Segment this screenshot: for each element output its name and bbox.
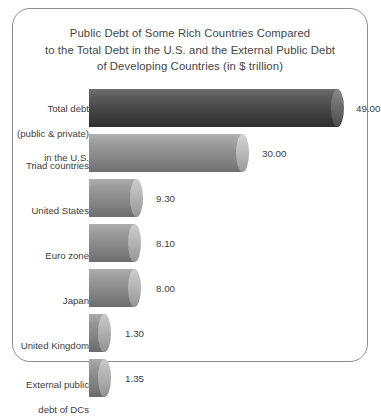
bar-row: United Kingdom 1.30 bbox=[13, 312, 369, 356]
chart-title: Public Debt of Some Rich Countries Compa… bbox=[13, 25, 367, 75]
bar-row: United States 9.30 bbox=[13, 177, 369, 221]
bar-cylinder-cap bbox=[128, 224, 141, 262]
bar-value-label: 8.10 bbox=[156, 239, 175, 249]
bar-value-label: 49.00 bbox=[356, 104, 381, 114]
bar-row: External public debt of DCs 1.35 bbox=[13, 357, 369, 401]
chart-title-line-1: Public Debt of Some Rich Countries Compa… bbox=[13, 25, 367, 42]
bar-cylinder-cap bbox=[98, 314, 111, 352]
bar-cylinder-cap bbox=[128, 269, 141, 307]
chart-title-line-2: to the Total Debt in the U.S. and the Ex… bbox=[13, 42, 367, 59]
bar-cylinder[interactable] bbox=[89, 179, 143, 217]
bar-value-label: 9.30 bbox=[156, 194, 175, 204]
bar-label-line: Total debt bbox=[47, 103, 89, 114]
bar-cylinder-cap bbox=[98, 359, 111, 397]
bar-row: Euro zone 8.10 bbox=[13, 222, 369, 266]
bar-cylinder-cap bbox=[130, 179, 143, 217]
bar-value-label: 8.00 bbox=[156, 284, 175, 294]
bar-cylinder[interactable] bbox=[89, 89, 344, 127]
bar-cylinder-body bbox=[89, 89, 338, 127]
bar-cylinder[interactable] bbox=[89, 269, 141, 307]
chart-title-line-3: of Developing Countries (in $ trillion) bbox=[13, 58, 367, 75]
bar-label-line: Triad countries bbox=[26, 160, 89, 171]
bar-row: Total debt (public & private) in the U.S… bbox=[13, 87, 369, 131]
bar-cylinder-body bbox=[89, 134, 243, 172]
bar-value-label: 30.00 bbox=[262, 149, 287, 159]
bar-label-line: debt of DCs bbox=[38, 404, 89, 415]
bar-cylinder[interactable] bbox=[89, 224, 141, 262]
bar-label-line: Japan bbox=[63, 295, 89, 306]
bar-value-label: 1.30 bbox=[125, 329, 144, 339]
bar-label-line: Euro zone bbox=[45, 250, 89, 261]
bar-label-line: United States bbox=[31, 205, 89, 216]
chart-frame: Public Debt of Some Rich Countries Compa… bbox=[12, 8, 368, 362]
bar-chart-plot-area: Total debt (public & private) in the U.S… bbox=[13, 87, 369, 357]
bar-cylinder-cap bbox=[331, 89, 344, 127]
bar-cylinder[interactable] bbox=[89, 359, 111, 397]
bar-value-label: 1.35 bbox=[125, 374, 144, 384]
bar-label: External public debt of DCs bbox=[0, 367, 89, 417]
bar-label-line: United Kingdom bbox=[21, 340, 89, 351]
bar-row: Japan 8.00 bbox=[13, 267, 369, 311]
bar-cylinder[interactable] bbox=[89, 134, 249, 172]
bar-row: Triad countries 30.00 bbox=[13, 132, 369, 176]
bar-cylinder[interactable] bbox=[89, 314, 111, 352]
bar-label-line: External public bbox=[26, 379, 89, 390]
bar-cylinder-cap bbox=[236, 134, 249, 172]
